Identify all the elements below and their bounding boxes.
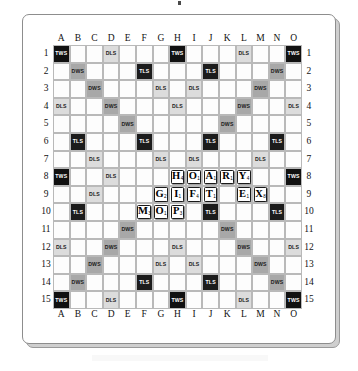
board-cell-C6[interactable]	[86, 133, 103, 151]
board-cell-K2[interactable]	[219, 63, 236, 81]
board-cell-H12[interactable]: DLS	[169, 239, 186, 257]
board-cell-C13[interactable]: DWS	[86, 256, 103, 274]
board-cell-J14[interactable]: TLS	[202, 274, 219, 292]
tile-J8-A[interactable]: A1	[204, 170, 218, 185]
tile-M9-X[interactable]: X8	[254, 187, 268, 202]
board-cell-N6[interactable]: TLS	[269, 133, 286, 151]
board-grid[interactable]: ABCDEFGHIJKLMNO1TWSDLSTWSDLSTWS12DWSTLST…	[39, 33, 319, 325]
board-cell-D8[interactable]: DLS	[103, 168, 120, 186]
board-cell-B7[interactable]	[70, 151, 87, 169]
board-cell-G9[interactable]: G2	[153, 186, 170, 204]
board-cell-E2[interactable]	[119, 63, 136, 81]
board-cell-O12[interactable]: DLS	[285, 239, 302, 257]
board-cell-A14[interactable]	[53, 274, 70, 292]
board-cell-O6[interactable]	[285, 133, 302, 151]
board-cell-H14[interactable]	[169, 274, 186, 292]
board-cell-F13[interactable]	[136, 256, 153, 274]
board-cell-D12[interactable]: DWS	[103, 239, 120, 257]
board-cell-A11[interactable]	[53, 221, 70, 239]
board-cell-E7[interactable]	[119, 151, 136, 169]
board-cell-D2[interactable]	[103, 63, 120, 81]
board-cell-J8[interactable]: A1	[202, 168, 219, 186]
board-cell-C5[interactable]	[86, 115, 103, 133]
board-cell-C2[interactable]	[86, 63, 103, 81]
board-cell-B2[interactable]: DWS	[70, 63, 87, 81]
board-cell-D15[interactable]: DLS	[103, 291, 120, 309]
board-cell-I7[interactable]: DLS	[186, 151, 203, 169]
board-cell-L10[interactable]	[236, 203, 253, 221]
board-cell-O10[interactable]	[285, 203, 302, 221]
scrabble-board[interactable]: ABCDEFGHIJKLMNO1TWSDLSTWSDLSTWS12DWSTLST…	[23, 15, 335, 343]
board-cell-J3[interactable]	[202, 80, 219, 98]
board-cell-E11[interactable]: DWS	[119, 221, 136, 239]
board-cell-K14[interactable]	[219, 274, 236, 292]
board-cell-N9[interactable]	[269, 186, 286, 204]
board-cell-M10[interactable]	[252, 203, 269, 221]
board-cell-N15[interactable]	[269, 291, 286, 309]
board-cell-O5[interactable]	[285, 115, 302, 133]
board-cell-A10[interactable]	[53, 203, 70, 221]
board-cell-A13[interactable]	[53, 256, 70, 274]
board-cell-L3[interactable]	[236, 80, 253, 98]
board-cell-E1[interactable]	[119, 45, 136, 63]
board-cell-G13[interactable]: DLS	[153, 256, 170, 274]
board-cell-I12[interactable]	[186, 239, 203, 257]
board-cell-A1[interactable]: TWS	[53, 45, 70, 63]
board-cell-H4[interactable]: DLS	[169, 98, 186, 116]
board-cell-G10[interactable]: O1	[153, 203, 170, 221]
board-cell-C11[interactable]	[86, 221, 103, 239]
board-cell-E13[interactable]	[119, 256, 136, 274]
board-cell-M7[interactable]: DLS	[252, 151, 269, 169]
board-cell-G4[interactable]	[153, 98, 170, 116]
board-cell-N10[interactable]: TLS	[269, 203, 286, 221]
board-cell-H13[interactable]	[169, 256, 186, 274]
board-cell-K5[interactable]: DWS	[219, 115, 236, 133]
board-cell-M1[interactable]	[252, 45, 269, 63]
board-cell-I15[interactable]	[186, 291, 203, 309]
board-cell-H7[interactable]	[169, 151, 186, 169]
board-cell-J4[interactable]	[202, 98, 219, 116]
board-cell-D6[interactable]	[103, 133, 120, 151]
board-cell-L7[interactable]	[236, 151, 253, 169]
board-cell-G15[interactable]	[153, 291, 170, 309]
board-cell-H5[interactable]	[169, 115, 186, 133]
board-cell-E12[interactable]	[119, 239, 136, 257]
board-cell-F9[interactable]	[136, 186, 153, 204]
board-cell-H9[interactable]: I1	[169, 186, 186, 204]
board-cell-A5[interactable]	[53, 115, 70, 133]
board-cell-I2[interactable]	[186, 63, 203, 81]
board-cell-O13[interactable]	[285, 256, 302, 274]
board-cell-B9[interactable]	[70, 186, 87, 204]
board-cell-D7[interactable]	[103, 151, 120, 169]
board-cell-I5[interactable]	[186, 115, 203, 133]
board-cell-N12[interactable]	[269, 239, 286, 257]
board-cell-H2[interactable]	[169, 63, 186, 81]
board-cell-M5[interactable]	[252, 115, 269, 133]
board-cell-G5[interactable]	[153, 115, 170, 133]
board-cell-A6[interactable]	[53, 133, 70, 151]
board-cell-G7[interactable]: DLS	[153, 151, 170, 169]
board-cell-I6[interactable]	[186, 133, 203, 151]
tile-G9-G[interactable]: G2	[154, 187, 168, 202]
board-cell-G11[interactable]	[153, 221, 170, 239]
board-cell-O15[interactable]: TWS	[285, 291, 302, 309]
board-cell-D4[interactable]: DWS	[103, 98, 120, 116]
board-cell-E14[interactable]	[119, 274, 136, 292]
board-cell-I1[interactable]	[186, 45, 203, 63]
board-cell-H11[interactable]	[169, 221, 186, 239]
board-cell-F6[interactable]: TLS	[136, 133, 153, 151]
board-cell-I4[interactable]	[186, 98, 203, 116]
board-cell-L12[interactable]: DWS	[236, 239, 253, 257]
board-cell-C12[interactable]	[86, 239, 103, 257]
board-cell-O9[interactable]	[285, 186, 302, 204]
board-cell-B13[interactable]	[70, 256, 87, 274]
board-cell-I14[interactable]	[186, 274, 203, 292]
board-cell-B1[interactable]	[70, 45, 87, 63]
board-cell-H1[interactable]: TWS	[169, 45, 186, 63]
tile-L9-E[interactable]: E1	[237, 187, 251, 202]
board-cell-J7[interactable]	[202, 151, 219, 169]
board-cell-C7[interactable]: DLS	[86, 151, 103, 169]
board-cell-M2[interactable]	[252, 63, 269, 81]
board-cell-O14[interactable]	[285, 274, 302, 292]
board-cell-I8[interactable]: O1	[186, 168, 203, 186]
